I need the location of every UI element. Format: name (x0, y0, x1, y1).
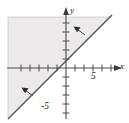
y-axis-label: y (70, 6, 74, 15)
graph-canvas (0, 0, 129, 123)
y-tick-label-minus-5: -5 (41, 102, 49, 112)
x-tick-label-5: 5 (91, 72, 96, 82)
x-axis-label: x (120, 62, 124, 71)
linear-inequality-graph: y x 5 -5 (0, 0, 129, 123)
